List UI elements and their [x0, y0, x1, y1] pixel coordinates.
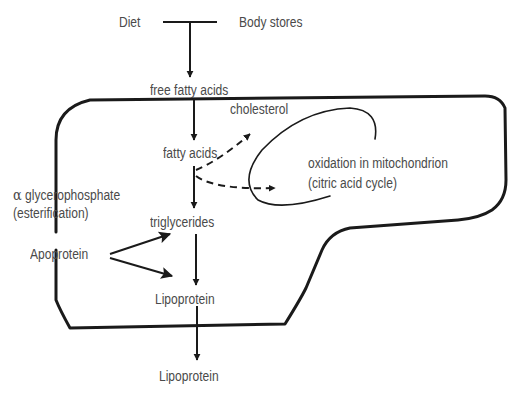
label-free-fatty-acids: free fatty acids — [150, 82, 228, 98]
arrow-apoprotein-to-triglycerides — [110, 234, 170, 254]
label-triglycerides: triglycerides — [150, 214, 214, 230]
label-lipoprotein-outside: Lipoprotein — [159, 368, 219, 384]
dashed-arrow-to-oxidation — [196, 176, 275, 188]
label-glycerophosphate-line2: (esterification) — [13, 205, 89, 221]
label-fatty-acids: fatty acids — [163, 145, 217, 161]
label-body-stores: Body stores — [239, 14, 303, 30]
label-cholesterol: cholesterol — [230, 101, 288, 117]
label-lipoprotein-inside: Lipoprotein — [155, 291, 215, 307]
label-apoprotein: Apoprotein — [30, 246, 88, 262]
alpha-symbol: α — [13, 186, 22, 204]
label-oxidation-line2: (citric acid cycle) — [308, 175, 397, 191]
glycerophosphate-text: glycerophosphate — [22, 187, 120, 203]
label-glycerophosphate-line1: α glycerophosphate — [13, 187, 120, 203]
label-diet: Diet — [119, 14, 140, 30]
arrow-apoprotein-to-lipoprotein — [110, 258, 172, 276]
label-oxidation-line1: oxidation in mitochondrion — [308, 155, 448, 171]
cell-membrane — [56, 96, 506, 328]
